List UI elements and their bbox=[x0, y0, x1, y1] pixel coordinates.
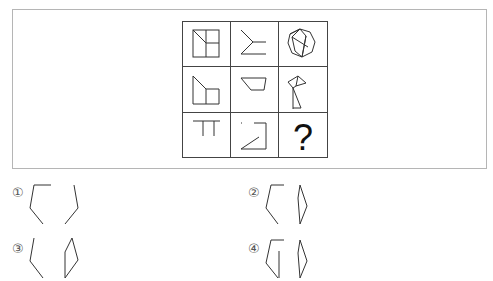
option-2-label[interactable]: ② bbox=[248, 185, 260, 200]
puzzle-grid: ? bbox=[182, 21, 328, 158]
cell-3-1-figure bbox=[193, 121, 220, 136]
option-4-label[interactable]: ④ bbox=[248, 241, 260, 256]
cell-2-1-figure bbox=[193, 76, 219, 104]
option-4-figure[interactable] bbox=[262, 238, 322, 281]
cell-2-2-figure bbox=[241, 78, 266, 90]
option-1-label[interactable]: ① bbox=[12, 185, 24, 200]
option-2-figure[interactable] bbox=[262, 182, 322, 227]
option-1-figure[interactable] bbox=[28, 182, 88, 227]
question-mark: ? bbox=[293, 117, 313, 158]
cell-3-2-figure bbox=[241, 123, 266, 149]
cell-1-3-figure bbox=[288, 29, 315, 57]
cell-1-2-figure bbox=[241, 30, 266, 54]
cell-1-1-figure bbox=[193, 30, 219, 57]
option-3-label[interactable]: ③ bbox=[12, 241, 24, 256]
cell-2-3-figure bbox=[288, 76, 306, 109]
option-3-figure[interactable] bbox=[28, 238, 88, 281]
